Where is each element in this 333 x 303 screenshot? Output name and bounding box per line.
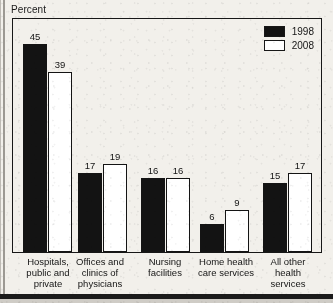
bar-1998-group-3[interactable] <box>141 178 165 252</box>
x-axis-label-line: physicians <box>69 278 131 289</box>
x-axis-label-line: care services <box>192 267 260 278</box>
x-axis-label-group-4: Home healthcare services <box>192 256 260 278</box>
x-axis-label-line: Offices and <box>69 256 131 267</box>
bar-value-2008-group-4: 9 <box>225 198 249 208</box>
bar-value-2008-group-5: 17 <box>288 161 312 171</box>
bars-layer: 451716615391916917 <box>13 19 321 252</box>
bar-value-2008-group-2: 19 <box>103 152 127 162</box>
x-axis-label-line: health <box>257 267 319 278</box>
bar-value-2008-group-1: 39 <box>48 60 72 70</box>
bar-value-1998-group-3: 16 <box>141 166 165 176</box>
x-axis-label-line: Home health <box>192 256 260 267</box>
page-bottom-margin <box>0 299 333 303</box>
bar-value-1998-group-4: 6 <box>200 212 224 222</box>
x-axis-label-line: clinics of <box>69 267 131 278</box>
y-axis-label: Percent <box>11 4 46 16</box>
bar-2008-group-4[interactable] <box>225 210 249 252</box>
bar-1998-group-1[interactable] <box>23 44 47 252</box>
bar-2008-group-1[interactable] <box>48 72 72 252</box>
x-axis-label-line: All other <box>257 256 319 267</box>
bar-value-1998-group-5: 15 <box>263 171 287 181</box>
x-axis-label-line: facilities <box>136 267 194 278</box>
x-axis-label-group-3: Nursingfacilities <box>136 256 194 278</box>
page-left-edge-rule-secondary <box>0 0 1 303</box>
chart-plot-area: 1998 2008 451716615391916917 <box>12 18 322 253</box>
bar-2008-group-2[interactable] <box>103 164 127 252</box>
bar-1998-group-5[interactable] <box>263 183 287 252</box>
bar-1998-group-4[interactable] <box>200 224 224 252</box>
bar-value-1998-group-1: 45 <box>23 32 47 42</box>
bar-value-1998-group-2: 17 <box>78 161 102 171</box>
bar-1998-group-2[interactable] <box>78 173 102 252</box>
x-axis-label-line: Nursing <box>136 256 194 267</box>
bar-2008-group-5[interactable] <box>288 173 312 252</box>
page-left-edge-rule <box>3 0 5 303</box>
x-axis-label-line: services <box>257 278 319 289</box>
x-axis-label-group-2: Offices andclinics ofphysicians <box>69 256 131 290</box>
bar-value-2008-group-3: 16 <box>166 166 190 176</box>
bar-2008-group-3[interactable] <box>166 178 190 252</box>
x-axis-label-group-5: All otherhealthservices <box>257 256 319 290</box>
